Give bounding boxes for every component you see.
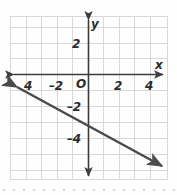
graph-canvas [0, 0, 177, 195]
x-tick-label-neg4: 4 [24, 80, 32, 92]
x-tick-label-neg2: –2 [49, 80, 63, 92]
x-axis-label: x [155, 59, 163, 71]
y-tick-label-neg4: –4 [67, 133, 81, 145]
y-tick-label-neg2: –2 [67, 101, 81, 113]
y-tick-label-pos2: 2 [72, 38, 80, 50]
origin-label: O [76, 78, 86, 90]
x-tick-label-pos4: 4 [145, 80, 153, 92]
y-axis-label: y [91, 18, 99, 30]
coordinate-plane-figure: 4 –2 2 4 2 –2 –4 O x y [0, 0, 177, 195]
footer-dot-row [3, 189, 175, 191]
x-tick-label-pos2: 2 [114, 80, 122, 92]
